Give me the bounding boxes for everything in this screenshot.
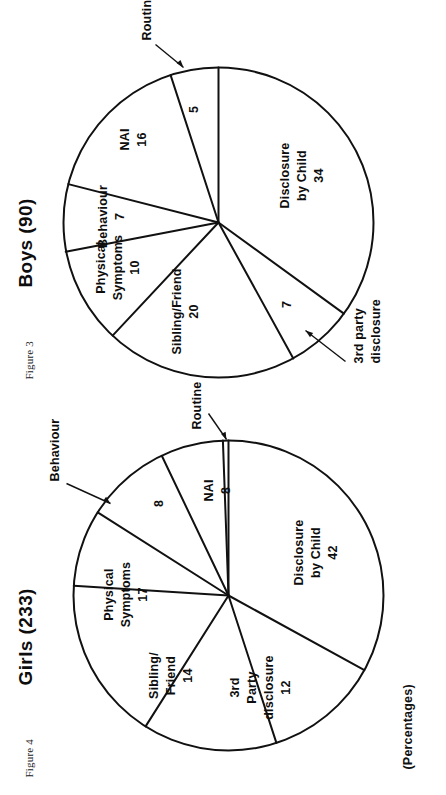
slice-label-boys-sibling-name: Sibling/Friend: [169, 268, 183, 354]
slice-label-girls-disclosure-l1: Disclosure: [291, 519, 305, 585]
slice-label-boys-physical-l1: Physical: [93, 241, 107, 293]
slice-label-girls-disclosure-l2: by Child: [308, 527, 322, 578]
slice-label-boys-disclosure-l2: by Child: [294, 150, 308, 201]
rotated-page-canvas: Figure 3 Boys (90): [0, 0, 446, 795]
slice-label-boys-routine-value: 5: [186, 105, 200, 112]
slice-label-girls-disclosure-value: 42: [325, 545, 339, 559]
slice-label-girls-sibling-l1: Sibling/: [146, 651, 160, 698]
slice-label-boys-third-party-value: 7: [279, 300, 293, 307]
callout-girls-behaviour-label: Behaviour: [47, 418, 61, 481]
slice-label-boys-physical-l2: Symptoms: [110, 234, 124, 300]
slice-label-boys-nai-value: 16: [134, 132, 148, 146]
figure-4-pie-chart: 8 NAI 8 Disclosure by Child 42 3rd Party…: [0, 398, 446, 795]
slice-label-girls-physical-value: 17: [135, 587, 149, 601]
slice-label-girls-physical-l1: Physical: [101, 568, 115, 620]
slice-label-boys-behaviour-value: 7: [112, 212, 126, 219]
slice-label-girls-nai-value: 8: [218, 486, 232, 493]
callout-boys-third-party-l1: 3rd party: [351, 308, 365, 363]
slice-label-girls-third-party-l1: 3rd: [227, 677, 241, 697]
slice-label-girls-third-party-l3: disclosure: [261, 655, 275, 720]
slice-label-girls-nai-name: NAI: [201, 479, 215, 501]
slice-label-boys-behaviour-name: Behaviour: [95, 185, 109, 248]
slice-label-boys-disclosure-value: 34: [311, 168, 325, 182]
callout-boys-third-party-l2: disclosure: [368, 298, 382, 363]
callout-boys-routine: Routine: [139, 0, 183, 67]
slice-label-girls-third-party-value: 12: [278, 680, 292, 694]
slice-label-boys-physical-value: 10: [127, 260, 141, 274]
figure-4-block: Figure 4 Girls (233) (Percentages): [0, 398, 446, 795]
callout-boys-routine-label: Routine: [139, 0, 153, 40]
slice-label-girls-sibling-value: 14: [180, 668, 194, 682]
document-page: Figure 3 Boys (90): [0, 0, 446, 795]
figure-3-block: Figure 3 Boys (90): [0, 0, 446, 397]
slice-label-girls-physical-l2: Symptoms: [118, 561, 132, 627]
figure-3-pie-chart: NAI 16 5 Disclosure by Child 34 7 Siblin…: [0, 0, 446, 397]
slice-label-boys-disclosure-l1: Disclosure: [277, 142, 291, 208]
slice-label-boys-nai-name: NAI: [117, 128, 131, 150]
slice-label-girls-third-party-l2: Party: [244, 671, 258, 703]
slice-label-boys-sibling-value: 20: [186, 304, 200, 318]
slice-label-girls-behaviour-value: 8: [151, 499, 165, 506]
callout-girls-behaviour: Behaviour: [47, 418, 110, 503]
callout-girls-routine-label: Routine: [189, 381, 203, 429]
slice-label-girls-sibling-l2: Friend: [163, 655, 177, 694]
